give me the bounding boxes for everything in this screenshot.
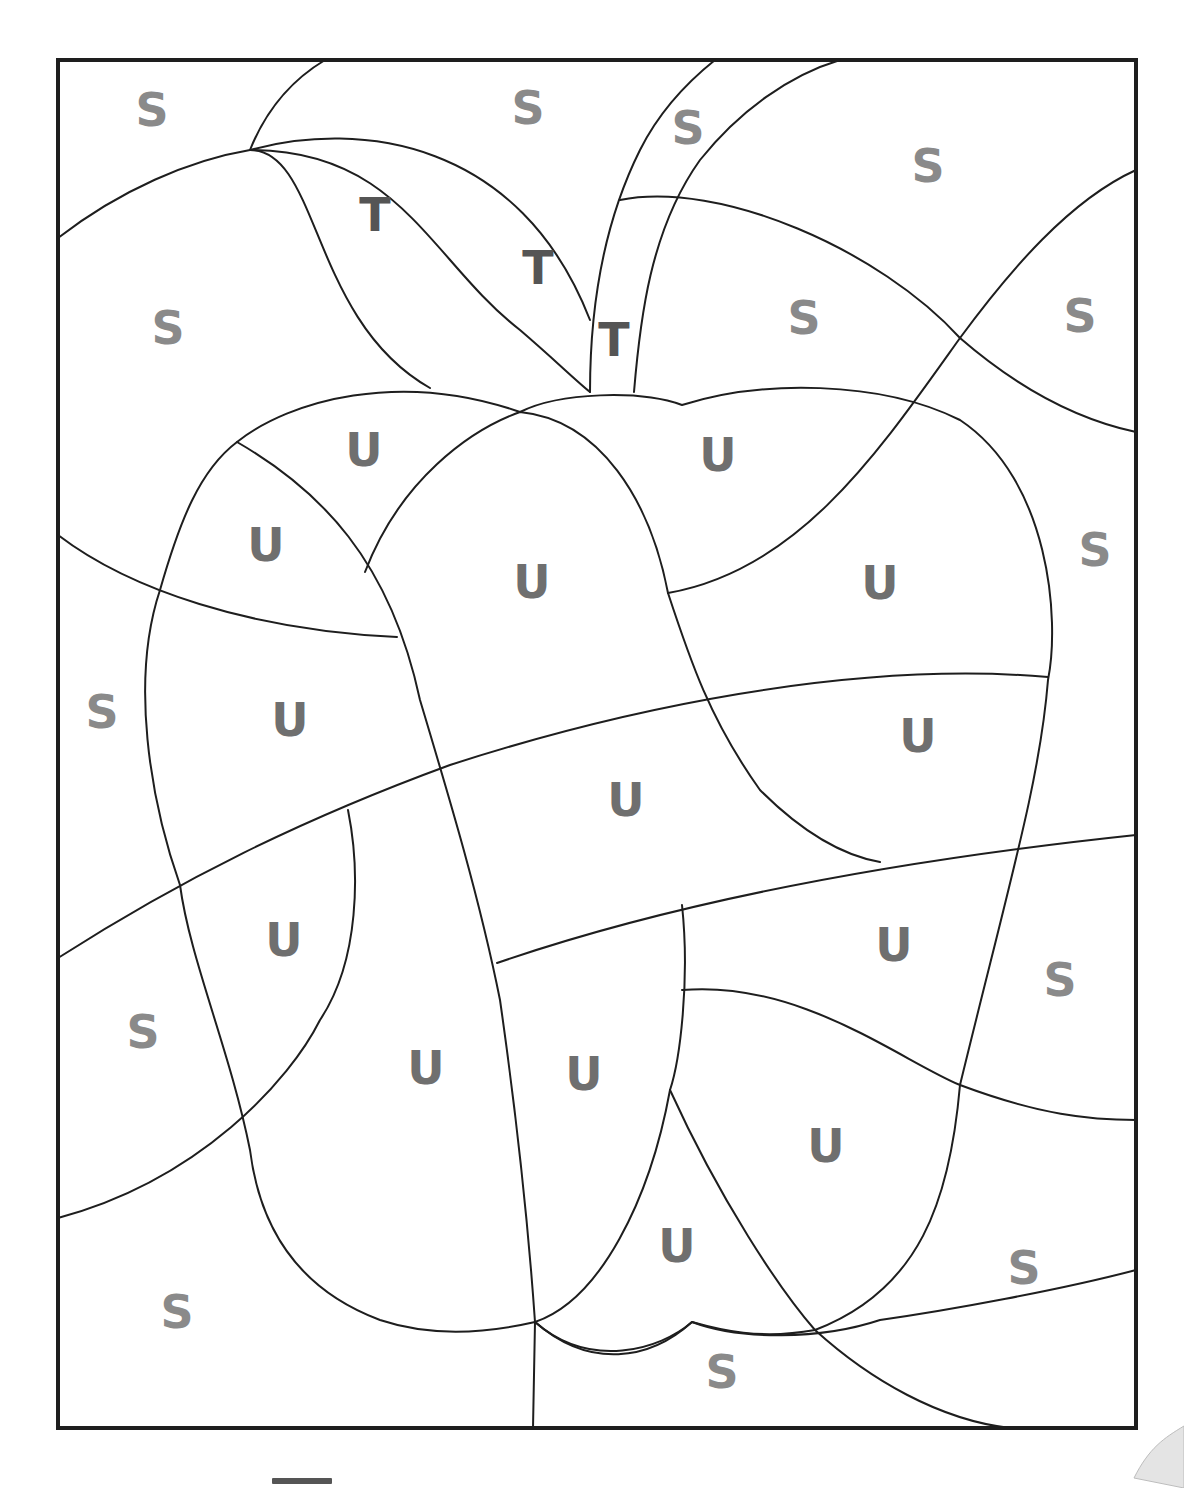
- region-letter-s: S: [126, 1009, 159, 1055]
- region-letter-u: U: [607, 777, 644, 823]
- region-letter-s: S: [135, 87, 168, 133]
- region-letter-s: S: [511, 85, 544, 131]
- region-letter-t: T: [522, 245, 553, 291]
- region-letter-u: U: [861, 560, 898, 606]
- region-letter-s: S: [787, 295, 820, 341]
- region-letter-s: S: [85, 689, 118, 735]
- region-letter-s: S: [1007, 1245, 1040, 1291]
- region-letter-u: U: [565, 1051, 602, 1097]
- region-letter-u: U: [807, 1123, 844, 1169]
- region-letter-s: S: [705, 1349, 738, 1395]
- region-letter-s: S: [671, 105, 704, 151]
- region-letter-u: U: [699, 432, 736, 478]
- region-letter-s: S: [911, 143, 944, 189]
- region-letter-u: U: [658, 1223, 695, 1269]
- region-letter-u: U: [345, 427, 382, 473]
- coloring-page-artwork: [0, 0, 1184, 1488]
- region-letter-u: U: [875, 922, 912, 968]
- page-curl-decoration: [1124, 1418, 1184, 1488]
- apple-outline-lines: [58, 60, 1136, 1428]
- region-letter-s: S: [1043, 957, 1076, 1003]
- bottom-edge-mark: [272, 1478, 332, 1484]
- region-letter-s: S: [1063, 293, 1096, 339]
- region-letter-t: T: [359, 192, 390, 238]
- region-letter-u: U: [513, 559, 550, 605]
- region-letter-u: U: [265, 917, 302, 963]
- region-letter-u: U: [247, 522, 284, 568]
- region-letter-t: T: [598, 317, 629, 363]
- region-letter-s: S: [151, 305, 184, 351]
- region-letter-u: U: [407, 1045, 444, 1091]
- region-letter-u: U: [271, 697, 308, 743]
- region-letter-u: U: [899, 713, 936, 759]
- region-letter-s: S: [1078, 527, 1111, 573]
- region-letter-s: S: [160, 1289, 193, 1335]
- page-frame: [58, 60, 1136, 1428]
